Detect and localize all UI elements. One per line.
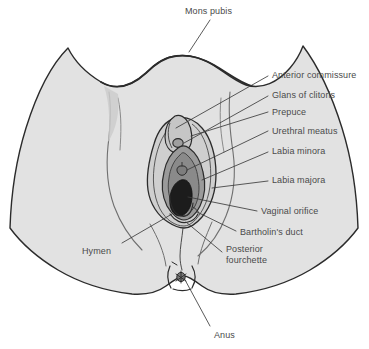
label-bartholins-duct: Bartholin's duct — [240, 227, 303, 238]
label-posterior-fourchette: Posterior fourchette — [226, 244, 267, 265]
leader-mons-pubis — [189, 20, 210, 52]
label-urethral-meatus: Urethral meatus — [272, 126, 338, 137]
label-prepuce: Prepuce — [272, 107, 306, 118]
label-glans-of-clitoris: Glans of clitoris — [272, 90, 335, 101]
urethral-meatus-shape — [177, 166, 187, 175]
label-labia-minora: Labia minora — [272, 146, 325, 157]
label-hymen: Hymen — [82, 246, 111, 257]
label-anus: Anus — [214, 330, 235, 341]
label-vaginal-orifice: Vaginal orifice — [261, 206, 318, 217]
label-mons-pubis: Mons pubis — [185, 6, 232, 17]
anatomical-figure: Mons pubis Anterior commissure Glans of … — [0, 0, 369, 349]
label-labia-majora: Labia majora — [272, 175, 325, 186]
label-anterior-commissure: Anterior commissure — [272, 70, 356, 81]
